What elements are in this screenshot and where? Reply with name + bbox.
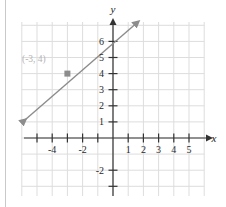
y-tick-label: 1 <box>99 116 104 127</box>
x-axis-label: x <box>211 132 217 144</box>
x-tick-label: 5 <box>187 144 192 155</box>
point-coordinate-label: (-3, 4) <box>22 54 46 65</box>
y-tick-label: -2 <box>96 165 104 176</box>
coordinate-plane-svg: -4 -2 1 2 3 4 5 6 5 4 3 2 1 -2 x y (-3, … <box>0 0 226 207</box>
x-tick-label: 2 <box>141 144 146 155</box>
x-tick-label: 3 <box>156 144 161 155</box>
x-tick-label: 4 <box>171 144 176 155</box>
x-tick-label: -2 <box>78 144 86 155</box>
y-tick-label: 4 <box>99 68 104 79</box>
coordinate-plane-figure: -4 -2 1 2 3 4 5 6 5 4 3 2 1 -2 x y (-3, … <box>0 0 226 207</box>
y-tick-label: 5 <box>99 52 104 63</box>
x-tick-label: 1 <box>126 144 131 155</box>
point-marker <box>64 71 70 77</box>
x-tick-label: -4 <box>48 144 56 155</box>
y-tick-label: 6 <box>99 36 104 47</box>
y-tick-label: 3 <box>99 84 104 95</box>
y-tick-label: 2 <box>99 100 104 111</box>
y-axis-label: y <box>110 3 116 15</box>
